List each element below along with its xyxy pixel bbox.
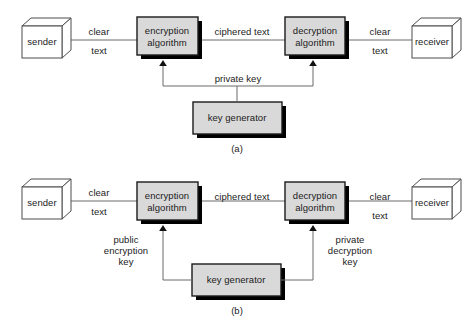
node-a-encryption-label-line1: encryption xyxy=(145,25,189,36)
edge-b-private-decryption-key-label-line3: key xyxy=(343,256,358,267)
edge-a-ciphered-text-label: ciphered text xyxy=(214,26,269,37)
edge-b-clear-text-out-label-line1: clear xyxy=(370,191,391,202)
node-b-sender-label: sender xyxy=(27,197,56,208)
node-b-decryption-label-line1: decryption xyxy=(293,190,337,201)
node-a-decryption-label-line2: algorithm xyxy=(295,37,335,48)
edge-a-clear-text-label-line2: text xyxy=(91,45,107,56)
node-a-sender-label: sender xyxy=(27,36,56,47)
edge-b-public-encryption-key-label-line1: public xyxy=(113,234,138,245)
edge-b-public-encryption-key xyxy=(163,228,192,280)
node-b-decryption-label-line2: algorithm xyxy=(295,202,335,213)
edge-b-private-decryption-key-label-line1: private xyxy=(336,234,365,245)
node-a-decryption-label-line1: decryption xyxy=(293,25,337,36)
panel-a-label: (a) xyxy=(231,143,243,154)
node-b-receiver-label: receiver xyxy=(415,197,449,208)
figure-canvas: sender clear text encryption algorithm c… xyxy=(0,0,474,331)
edge-b-private-decryption-key xyxy=(281,228,313,280)
edge-a-clear-text-label-line1: clear xyxy=(89,26,110,37)
edge-a-private-key-label: private key xyxy=(215,73,262,84)
node-a-encryption-label-line2: algorithm xyxy=(147,37,187,48)
edge-a-clear-text-out-label-line2: text xyxy=(372,45,388,56)
panel-b-label: (b) xyxy=(231,305,243,316)
edge-b-ciphered-text-label: ciphered text xyxy=(214,191,269,202)
edge-a-clear-text-out-label-line1: clear xyxy=(370,26,391,37)
node-a-key-generator-label: key generator xyxy=(208,112,267,123)
edge-b-private-decryption-key-label-line2: decryption xyxy=(328,245,372,256)
edge-b-public-encryption-key-label-line2: encryption xyxy=(104,245,148,256)
edge-b-clear-text-label-line2: text xyxy=(91,206,107,217)
edge-b-clear-text-label-line1: clear xyxy=(89,187,110,198)
edge-b-clear-text-out-label-line2: text xyxy=(372,210,388,221)
node-a-receiver-label: receiver xyxy=(415,36,449,47)
edge-b-public-encryption-key-label-line3: key xyxy=(119,256,134,267)
node-b-encryption-label-line1: encryption xyxy=(145,190,189,201)
node-b-key-generator-label: key generator xyxy=(207,274,266,285)
node-b-encryption-label-line2: algorithm xyxy=(147,202,187,213)
